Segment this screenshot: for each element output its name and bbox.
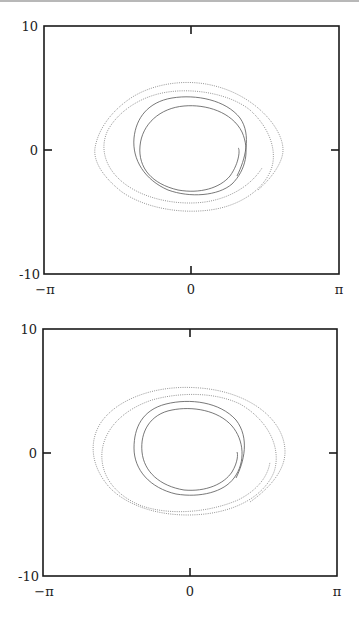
plot-1-xlabel-mid: 0: [187, 282, 195, 297]
plot-2-frame: [43, 329, 337, 576]
plot-2-xlabel-right: π: [333, 584, 342, 599]
plot-2-solid-trajectory: [134, 401, 244, 495]
plot-1-dotted-trajectory: [95, 82, 283, 211]
plot-1-ylabel-bot: -10: [19, 267, 40, 282]
plot-1-frame: [44, 26, 339, 274]
plot-2-xlabel-left: −π: [34, 584, 54, 599]
plot-2-ylabel-bot: -10: [18, 569, 39, 584]
plot-1-solid-trajectory: [134, 97, 247, 195]
plot-2: 10 0 -10 −π 0 π: [18, 322, 342, 599]
plot-1-ylabel-mid: 0: [30, 143, 38, 158]
plot-2-ylabel-top: 10: [20, 322, 37, 337]
figure: 10 0 -10 −π 0 π 10 0 -10 −π 0 π: [0, 0, 359, 617]
plot-2-dotted-trajectory: [93, 387, 285, 515]
plot-1-ylabel-top: 10: [21, 19, 38, 34]
plot-1: 10 0 -10 −π 0 π: [19, 19, 344, 297]
plot-2-xlabel-mid: 0: [186, 584, 194, 599]
plot-1-xlabel-right: π: [335, 282, 344, 297]
plot-1-xlabel-left: −π: [35, 282, 55, 297]
plot-2-ylabel-mid: 0: [29, 446, 37, 461]
